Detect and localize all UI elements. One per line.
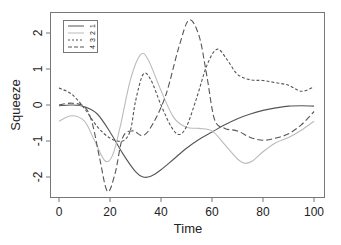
line-chart: 020406080100 -2-1012 Time Squeeze 1234 — [0, 0, 341, 245]
y-tick-label: 2 — [31, 29, 45, 36]
x-tick-label: 20 — [103, 205, 117, 219]
x-tick-label: 0 — [56, 205, 63, 219]
series-line-1 — [59, 105, 314, 177]
legend-label-3: 3 — [89, 38, 96, 42]
x-tick-label: 100 — [304, 205, 324, 219]
y-tick-label: -2 — [31, 171, 45, 182]
legend-label-2: 2 — [89, 31, 96, 35]
y-axis-title: Squeeze — [8, 79, 23, 130]
x-tick-label: 80 — [256, 205, 270, 219]
legend-label-4: 4 — [89, 45, 96, 49]
x-axis-title: Time — [174, 221, 202, 236]
y-tick-label: 0 — [31, 101, 45, 108]
y-tick-label: 1 — [31, 65, 45, 72]
x-tick-label: 40 — [154, 205, 168, 219]
series-line-3 — [59, 49, 314, 141]
x-tick-label: 60 — [205, 205, 219, 219]
y-tick-label: -1 — [31, 135, 45, 146]
legend: 1234 — [64, 21, 98, 53]
legend-label-1: 1 — [89, 24, 96, 28]
x-axis: 020406080100 — [56, 198, 325, 220]
y-axis: -2-1012 — [31, 29, 51, 182]
